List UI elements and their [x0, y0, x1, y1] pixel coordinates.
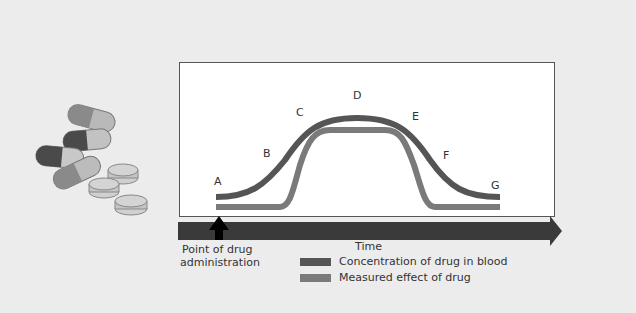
administration-label-1: Point of drug: [182, 243, 252, 256]
point-f: F: [443, 149, 449, 162]
legend-item-effect: Measured effect of drug: [300, 271, 471, 284]
point-a: A: [214, 175, 222, 188]
legend-swatch: [300, 274, 331, 282]
point-d: D: [353, 89, 361, 102]
point-c: C: [296, 106, 304, 119]
administration-label-2: administration: [180, 256, 260, 269]
legend-item-concentration: Concentration of drug in blood: [300, 255, 507, 268]
time-label: Time: [355, 240, 382, 253]
effect-curve: [216, 130, 500, 207]
legend-swatch: [300, 258, 331, 266]
point-b: B: [263, 147, 271, 160]
point-e: E: [412, 110, 419, 123]
point-g: G: [491, 179, 500, 192]
